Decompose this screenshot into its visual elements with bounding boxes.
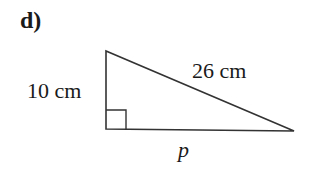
- triangle-diagram: d) 10 cm 26 cm p: [0, 0, 319, 173]
- question-label: d): [20, 7, 41, 33]
- right-angle-marker: [106, 110, 126, 129]
- side-label-hypotenuse: 26 cm: [192, 58, 246, 83]
- side-label-base: p: [176, 137, 189, 162]
- side-label-vertical: 10 cm: [27, 78, 81, 103]
